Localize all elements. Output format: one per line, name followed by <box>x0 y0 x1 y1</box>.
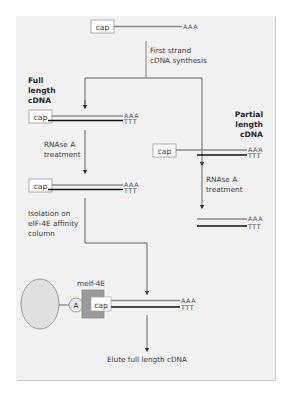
meif4e-label: meIf-4E <box>77 279 105 288</box>
polyt-label: TTT <box>247 223 261 230</box>
step-label: Isolation on <box>28 209 70 218</box>
bead-icon <box>21 279 59 329</box>
partial-length-duplex: cap AAA TTT <box>153 144 263 159</box>
linker-label: A <box>74 301 79 310</box>
step-label: First strand <box>150 46 191 55</box>
partial-length-heading: cDNA <box>240 130 263 139</box>
cap-label: cap <box>96 23 110 32</box>
final-step-label: Elute full length cDNA <box>107 355 187 364</box>
step-label: eIF-4E affinity <box>28 219 79 228</box>
affinity-column: A meIf-4E cap AAA TTT <box>21 279 196 329</box>
polyt-label: TTT <box>123 187 137 194</box>
step-label: column <box>28 229 55 238</box>
full-length-heading: cDNA <box>28 96 51 105</box>
full-length-after-rnase: cap AAA TTT <box>29 179 139 194</box>
polyt-label: TTT <box>247 152 261 159</box>
cap-label: cap <box>94 301 108 310</box>
partial-length-after-rnase: AAA TTT <box>197 215 263 230</box>
polya-label: AAA <box>183 23 198 30</box>
cap-label: cap <box>34 182 48 191</box>
top-mrna: cap AAA <box>91 20 198 33</box>
partial-length-heading: length <box>235 120 263 129</box>
polyt-label: TTT <box>180 304 194 311</box>
step-label: RNAse A <box>206 175 237 184</box>
full-length-duplex: cap AAA TTT <box>29 110 139 125</box>
full-length-heading: length <box>28 86 56 95</box>
partial-length-heading: Partial <box>235 110 263 119</box>
step-label: treatment <box>206 185 243 194</box>
polya-label: AAA <box>181 297 196 304</box>
cap-label: cap <box>34 113 48 122</box>
step-label: treatment <box>44 150 81 159</box>
polyt-label: TTT <box>123 118 137 125</box>
step-label: RNAse A <box>44 140 75 149</box>
step-label: cDNA synthesis <box>150 56 207 65</box>
cap-label: cap <box>158 147 172 156</box>
full-length-heading: Full <box>28 76 43 85</box>
polya-label: AAA <box>248 215 263 222</box>
cdna-flow-diagram: cap AAA First strand cDNA synthesis Full… <box>0 0 290 395</box>
